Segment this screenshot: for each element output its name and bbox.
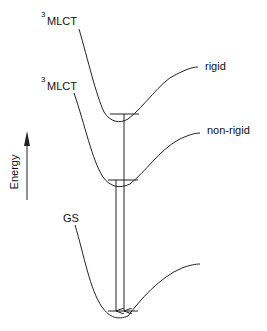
gs-label: GS <box>63 212 79 224</box>
energy-axis-label: Energy <box>8 154 20 189</box>
nonrigid-label-superscript: 3 <box>41 75 46 84</box>
arrow-up-icon <box>24 131 30 146</box>
gs-curve <box>75 225 200 318</box>
rigid-label-superscript: 3 <box>41 10 46 19</box>
mlct-nonrigid-curve <box>74 93 200 187</box>
nonrigid-tag: non-rigid <box>207 124 250 136</box>
mlct-rigid-curve <box>79 29 198 122</box>
energy-diagram: Energy 3 MLCT rigid 3 MLCT non-rigid GS <box>0 0 267 331</box>
rigid-state-label: MLCT <box>47 15 77 27</box>
rigid-tag: rigid <box>205 60 226 72</box>
nonrigid-state-label: MLCT <box>47 80 77 92</box>
